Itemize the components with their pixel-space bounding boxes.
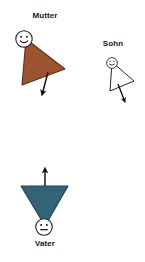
figure-mutter-face-smile-icon: [16, 31, 32, 47]
diagram-canvas: [0, 0, 145, 262]
family-constellation-diagram: Mutter Sohn Vater: [0, 0, 145, 262]
figure-sohn: [107, 58, 134, 102]
figure-vater-face-neutral-icon: [36, 219, 52, 235]
figure-sohn-face-smile-icon: [107, 58, 118, 69]
figure-mutter: [16, 31, 65, 95]
figure-vater: [21, 168, 68, 235]
